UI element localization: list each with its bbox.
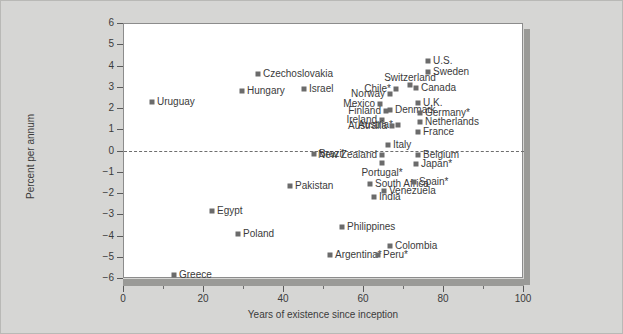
y-axis-tick-label: −2: [103, 188, 114, 198]
data-point: [418, 119, 423, 124]
x-axis-minor-tick: [243, 286, 244, 289]
y-axis-tick-label: 4: [108, 61, 114, 71]
data-point: [394, 86, 399, 91]
data-point: [210, 209, 215, 214]
data-point: [172, 272, 177, 277]
data-point: [380, 152, 385, 157]
data-point: [380, 161, 385, 166]
y-axis-tick-label: 2: [108, 103, 114, 113]
data-point: [408, 82, 413, 87]
x-axis-tick: [363, 286, 364, 292]
y-axis-tick: [117, 193, 123, 194]
data-point: [414, 85, 419, 90]
data-point: [312, 151, 317, 156]
data-point: [372, 195, 377, 200]
data-point-label: Czechoslovakia: [263, 69, 333, 79]
y-axis-tick-label: 3: [108, 82, 114, 92]
x-axis-tick: [203, 286, 204, 292]
data-point: [416, 130, 421, 135]
x-axis-minor-tick: [323, 286, 324, 289]
x-axis-tick-label: 40: [277, 293, 288, 304]
y-axis-tick: [117, 214, 123, 215]
data-point: [396, 122, 401, 127]
data-point-label: Uruguay: [157, 97, 195, 107]
data-point-label: Canada: [421, 83, 456, 93]
data-point: [256, 71, 261, 76]
data-point-label: Poland: [243, 229, 274, 239]
y-axis-tick: [117, 23, 123, 24]
plot-shadow-right: [524, 29, 530, 284]
x-axis-minor-tick: [403, 286, 404, 289]
data-point-label: Egypt: [217, 206, 243, 216]
x-axis-tick: [283, 286, 284, 292]
x-axis-tick-label: 100: [515, 293, 532, 304]
y-axis-tick-label: 0: [108, 146, 114, 156]
data-point: [414, 162, 419, 167]
data-point: [302, 86, 307, 91]
data-point-label: U.S.: [433, 56, 452, 66]
y-axis-tick-label: 1: [108, 124, 114, 134]
data-point: [384, 109, 389, 114]
data-point-label: Japan*: [421, 159, 452, 169]
data-point-label: Hungary: [247, 86, 285, 96]
data-point-label: Israel: [309, 84, 333, 94]
data-point: [416, 152, 421, 157]
y-axis-title: Percent per annum: [25, 92, 36, 222]
data-point-label: India: [379, 192, 401, 202]
data-point-label: Australia: [348, 121, 387, 131]
y-axis-tick: [117, 44, 123, 45]
y-axis-tick-label: −5: [103, 252, 114, 262]
y-axis-tick-label: −1: [103, 167, 114, 177]
y-axis-tick: [117, 172, 123, 173]
data-point-label: Italy: [393, 140, 411, 150]
data-point-label: Sweden: [433, 67, 469, 77]
x-axis-tick: [123, 286, 124, 292]
data-point: [288, 183, 293, 188]
data-point-label: Netherlands: [425, 117, 479, 127]
data-point: [368, 182, 373, 187]
data-point: [426, 59, 431, 64]
data-point: [328, 252, 333, 257]
x-axis-tick-label: 20: [197, 293, 208, 304]
y-axis-tick-label: −4: [103, 231, 114, 241]
scatter-plot-area: U.S.SwedenSwitzerlandCanadaChile*NorwayU…: [123, 23, 523, 278]
data-point: [388, 92, 393, 97]
data-point: [418, 111, 423, 116]
data-point-label: Brazil: [319, 149, 344, 159]
y-axis-tick: [117, 66, 123, 67]
y-axis-tick-label: −3: [103, 209, 114, 219]
y-axis-tick: [117, 129, 123, 130]
y-axis: 6543210−1−2−3−4−5−6: [1, 1, 123, 334]
y-axis-tick: [117, 151, 123, 152]
x-axis-tick-label: 0: [120, 293, 126, 304]
data-point-label: Portugal*: [361, 168, 402, 178]
data-point: [340, 224, 345, 229]
y-axis-tick: [117, 87, 123, 88]
data-point-label: Philippines: [347, 222, 395, 232]
data-point-label: France: [423, 127, 454, 137]
y-axis-tick-label: −6: [103, 273, 114, 283]
x-axis-bar: [123, 279, 524, 286]
data-point-label: Peru*: [383, 250, 408, 260]
x-axis-tick-label: 60: [357, 293, 368, 304]
x-axis-tick: [443, 286, 444, 292]
x-axis-title: Years of existence since inception: [123, 309, 523, 320]
data-point: [240, 88, 245, 93]
y-axis-tick: [117, 236, 123, 237]
figure-container: U.S.SwedenSwitzerlandCanadaChile*NorwayU…: [0, 0, 623, 334]
y-axis-tick: [117, 108, 123, 109]
data-point: [390, 124, 395, 129]
data-point: [376, 252, 381, 257]
data-point: [386, 143, 391, 148]
data-point-label: Pakistan: [295, 181, 333, 191]
x-axis-minor-tick: [163, 286, 164, 289]
y-axis-tick-label: 6: [108, 18, 114, 28]
x-axis-tick-label: 80: [437, 293, 448, 304]
y-axis-tick-label: 5: [108, 39, 114, 49]
x-axis-minor-tick: [483, 286, 484, 289]
data-point: [236, 232, 241, 237]
x-axis-tick: [523, 286, 524, 292]
y-axis-tick: [117, 257, 123, 258]
data-point: [150, 99, 155, 104]
